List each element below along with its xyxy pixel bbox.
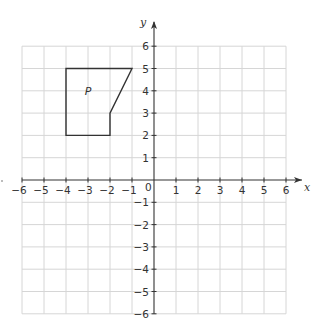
- shape-P: [66, 69, 132, 136]
- x-tick-label: −5: [33, 184, 48, 196]
- y-tick-label: 2: [142, 129, 149, 141]
- y-tick-label: −3: [134, 241, 149, 253]
- y-tick-label: −1: [134, 196, 149, 208]
- x-tick-label: 1: [173, 184, 180, 196]
- shapes: P: [66, 69, 132, 136]
- x-tick-label: −1: [121, 184, 136, 196]
- x-tick-label: 2: [195, 184, 202, 196]
- y-tick-label: 6: [142, 40, 149, 52]
- origin-label: 0: [145, 181, 152, 193]
- stray-mark: [1, 180, 3, 182]
- shape-label: P: [85, 85, 92, 98]
- x-tick-label: −3: [77, 184, 92, 196]
- x-tick-label: −6: [11, 184, 27, 196]
- y-tick-label: −2: [134, 219, 149, 231]
- y-tick-label: 3: [142, 107, 149, 119]
- x-tick-label: 5: [261, 184, 268, 196]
- x-tick-label: −2: [99, 184, 114, 196]
- y-tick-label: 5: [142, 63, 149, 75]
- x-axis-label: x: [304, 181, 311, 194]
- y-tick-label: 1: [142, 152, 149, 164]
- axes: [22, 21, 302, 314]
- x-tick-label: −4: [55, 184, 71, 196]
- x-tick-label: 6: [283, 184, 290, 196]
- y-tick-label: 4: [142, 85, 149, 97]
- y-tick-label: −5: [134, 286, 149, 298]
- coordinate-grid: −6−5−4−3−2−1123456−6−5−4−3−2−1123456 P x…: [0, 0, 322, 327]
- y-tick-label: −4: [134, 263, 150, 275]
- x-tick-label: 4: [239, 184, 246, 196]
- x-tick-label: 3: [217, 184, 224, 196]
- y-tick-label: −6: [134, 308, 150, 320]
- y-axis-label: y: [139, 16, 147, 29]
